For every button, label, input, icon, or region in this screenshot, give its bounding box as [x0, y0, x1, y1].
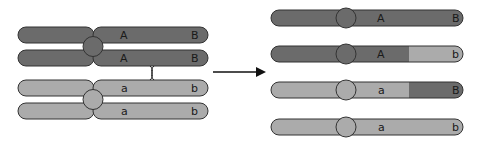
gene-label: a — [378, 84, 385, 97]
chromatid-3-after: a B — [271, 80, 463, 100]
gene-label: b — [452, 121, 459, 134]
after-crossover-panel: A B A b a B — [271, 8, 463, 137]
gene-label: a — [378, 121, 385, 134]
centromere-dark — [83, 37, 103, 57]
gene-label: B — [191, 52, 199, 65]
crossing-over-diagram: A B A B a b a b A B A b — [0, 0, 484, 144]
gene-label: b — [191, 105, 198, 118]
gene-label: B — [191, 29, 199, 42]
chromatid-4-before — [18, 103, 208, 119]
chromatid-4-after: a b — [271, 117, 463, 137]
gene-label: A — [377, 48, 385, 61]
gene-label: a — [121, 82, 128, 95]
chiasma-icon — [150, 66, 154, 80]
gene-label: a — [121, 105, 128, 118]
chromatid-1-after: A B — [271, 8, 463, 28]
chromatid-2-before — [18, 50, 208, 66]
arrow-right-icon — [213, 67, 266, 77]
gene-label: B — [452, 12, 460, 25]
centromere-light — [83, 90, 103, 110]
gene-label: A — [120, 52, 128, 65]
gene-label: A — [120, 29, 128, 42]
gene-label: b — [452, 48, 459, 61]
chromatid-2-after: A b — [271, 44, 463, 64]
before-crossover-panel: A B A B a b a b — [18, 27, 208, 119]
gene-label: B — [452, 84, 460, 97]
gene-label: b — [191, 82, 198, 95]
gene-label: A — [377, 12, 385, 25]
chromatid-1-before — [18, 27, 208, 43]
chromatid-3-before — [18, 80, 208, 96]
